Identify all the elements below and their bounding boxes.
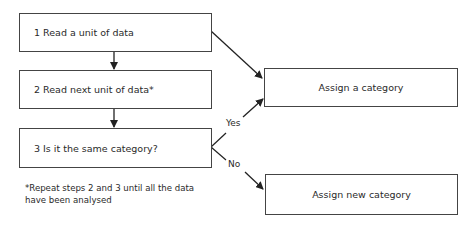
arrow-step1-to-assign [211, 31, 262, 78]
footnote-line-1: *Repeat steps 2 and 3 until all the data [25, 182, 194, 194]
yes-label: Yes [226, 118, 241, 128]
assign-category-label: Assign a category [319, 82, 404, 93]
step-2-label: 2 Read next unit of data* [34, 84, 154, 95]
footnote: *Repeat steps 2 and 3 until all the data… [25, 182, 194, 206]
assign-new-category-box: Assign new category [265, 174, 458, 215]
footnote-line-2: have been analysed [25, 194, 194, 206]
step-3-label: 3 Is it the same category? [34, 143, 158, 154]
step-3-box: 3 Is it the same category? [19, 128, 212, 168]
no-label: No [228, 159, 240, 169]
assign-new-category-label: Assign new category [312, 189, 411, 200]
yes-branch-line [211, 133, 226, 147]
assign-category-box: Assign a category [264, 68, 458, 107]
arrow-no-to-assign-new [245, 172, 263, 189]
step-1-box: 1 Read a unit of data [19, 13, 212, 52]
step-2-box: 2 Read next unit of data* [19, 70, 212, 109]
arrow-yes-to-assign [243, 99, 263, 117]
no-branch-line [211, 147, 226, 160]
step-1-label: 1 Read a unit of data [34, 27, 134, 38]
